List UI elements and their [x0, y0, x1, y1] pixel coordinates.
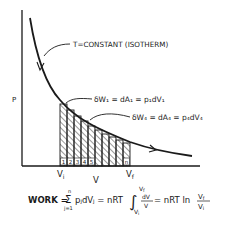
strip-number: 5 — [90, 159, 94, 165]
strip1-leader — [66, 98, 92, 103]
strip-number: 3 — [76, 159, 80, 165]
v-final-label: Vf — [126, 169, 135, 180]
sum-sign: Σ — [65, 194, 71, 205]
sum-bottom: j=1 — [63, 205, 73, 212]
strip4-leader — [90, 114, 130, 120]
isotherm-label: T=CONSTANT (ISOTHERM) — [72, 40, 169, 49]
annotation-strip-4: δW₄ = dA₄ = p₄dV₄ — [132, 113, 203, 122]
v-initial-label: Vi — [57, 169, 65, 180]
strip-number-last: n — [125, 159, 129, 165]
sum-body: pⱼdVⱼ = nRT — [75, 195, 124, 205]
int-bottom: Vi — [134, 208, 139, 216]
work-formula: WORK = n Σ j=1 pⱼdVⱼ = nRT ∫ Vf Vi dV V … — [28, 185, 210, 216]
frac-denominator: Vi — [198, 203, 204, 211]
x-axis-label: V — [93, 175, 99, 185]
strip-number: 2 — [69, 159, 73, 165]
isotherm-leader — [44, 44, 70, 56]
pv-diagram: 1 2 3 4 5 n T=CONSTANT (ISOTHERM) P δW₁ … — [0, 0, 225, 232]
strip-number: 4 — [83, 159, 87, 165]
annotation-strip-1: δW₁ = dA₁ = p₁dV₁ — [94, 95, 165, 104]
formula-lhs: WORK = — [28, 195, 68, 205]
strip-number: 1 — [62, 159, 66, 165]
isotherm-curve — [30, 18, 192, 156]
y-axis-label: P — [12, 96, 16, 104]
int-top: Vf — [139, 185, 145, 193]
int-denominator: V — [144, 202, 149, 209]
frac-numerator: Vf — [198, 193, 205, 201]
formula-rhs: = nRT ln — [154, 195, 190, 205]
int-numerator: dV — [142, 193, 151, 200]
work-strips — [60, 104, 130, 166]
